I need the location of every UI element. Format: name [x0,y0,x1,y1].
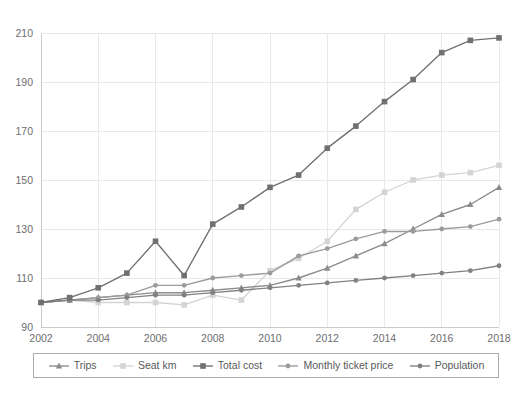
data-point-marker [439,50,445,56]
data-point-marker [200,363,206,369]
data-point-marker [411,273,416,278]
data-point-marker [497,217,502,222]
data-point-marker [439,271,444,276]
x-axis-tick-label: 2010 [258,332,282,344]
data-point-marker [496,163,502,169]
legend-item-trips[interactable]: Trips [48,360,97,372]
legend-marker-circle-icon [409,360,431,372]
data-point-marker [417,363,422,368]
data-point-marker [268,285,273,290]
data-point-marker [182,283,187,288]
y-axis-tick-label: 150 [15,174,33,186]
data-point-marker [124,270,130,276]
data-point-marker [296,254,301,259]
legend-item-seat-km[interactable]: Seat km [112,360,177,372]
chart-legend: TripsSeat kmTotal costMonthly ticket pri… [33,353,499,378]
data-point-marker [124,300,130,306]
data-point-marker [468,38,474,44]
x-axis-tick-label: 2018 [487,332,511,344]
data-point-marker [182,293,187,298]
legend-label: Trips [74,360,97,371]
data-point-marker [124,295,129,300]
data-point-marker [467,201,473,207]
x-axis-tick-label: 2014 [373,332,397,344]
x-axis-tick-label: 2004 [87,332,111,344]
y-axis-tick-label: 130 [15,223,33,235]
data-point-marker [296,172,302,178]
data-point-marker [382,189,388,195]
data-point-marker [468,224,473,229]
legend-label: Monthly ticket price [303,360,393,371]
data-point-marker [382,276,387,281]
y-axis-tick-label: 210 [15,27,33,39]
data-point-marker [439,172,445,178]
plot-svg: 9011013015017019021020022004200620082010… [0,0,513,345]
x-axis-tick-label: 2002 [29,332,53,344]
data-point-marker [296,283,301,288]
data-point-marker [239,288,244,293]
data-point-marker [268,271,273,276]
data-point-marker [468,268,473,273]
data-point-marker [353,123,359,129]
legend-marker-square-icon [192,360,214,372]
data-point-marker [410,177,416,183]
y-axis-tick-label: 170 [15,125,33,137]
data-point-marker [239,204,245,210]
data-point-marker [267,185,273,191]
legend-marker-triangle-icon [48,360,70,372]
data-point-marker [353,207,359,213]
data-point-marker [153,300,159,306]
line-chart: 9011013015017019021020022004200620082010… [0,0,513,394]
data-point-marker [153,238,159,244]
data-point-marker [410,77,416,83]
x-axis-tick-label: 2006 [144,332,168,344]
legend-label: Total cost [218,360,262,371]
data-point-marker [468,170,474,176]
x-axis-tick-label: 2016 [430,332,454,344]
data-point-marker [382,99,388,105]
plot-area: 9011013015017019021020022004200620082010… [0,0,513,345]
data-point-marker [210,221,216,227]
x-axis-tick-label: 2008 [201,332,225,344]
data-point-marker [353,278,358,283]
y-axis-tick-label: 190 [15,76,33,88]
data-point-marker [325,246,330,251]
data-point-marker [181,302,187,308]
data-point-marker [324,145,330,151]
data-point-marker [210,290,215,295]
data-point-marker [382,229,387,234]
data-point-marker [324,238,330,244]
data-point-marker [439,227,444,232]
data-point-marker [239,297,245,303]
legend-item-population[interactable]: Population [409,360,485,372]
data-point-marker [239,273,244,278]
data-point-marker [286,363,291,368]
data-point-marker [153,293,158,298]
data-point-marker [120,363,126,369]
data-point-marker [496,184,502,190]
legend-item-total-cost[interactable]: Total cost [192,360,262,372]
x-axis-tick-label: 2012 [316,332,340,344]
data-point-marker [411,229,416,234]
data-point-marker [67,295,73,301]
data-point-marker [38,300,44,306]
legend-marker-square-icon [112,360,134,372]
data-point-marker [325,281,330,286]
data-point-marker [210,276,215,281]
legend-marker-circle-icon [277,360,299,372]
data-point-marker [353,236,358,241]
data-point-marker [181,273,187,279]
data-point-marker [96,298,101,303]
y-axis-tick-label: 110 [16,272,33,284]
data-point-marker [497,263,502,268]
data-point-marker [153,283,158,288]
data-point-marker [496,35,502,41]
data-point-marker [95,285,101,291]
legend-label: Population [435,360,485,371]
legend-label: Seat km [138,360,177,371]
y-axis-tick-label: 90 [21,321,33,333]
legend-item-monthly-ticket-price[interactable]: Monthly ticket price [277,360,393,372]
